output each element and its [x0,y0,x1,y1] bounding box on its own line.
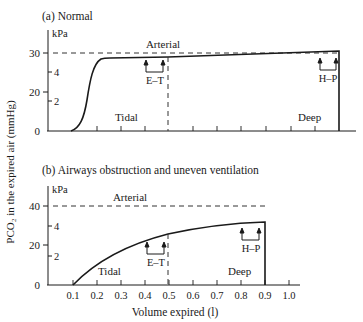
kpa-tick-2: 2 [54,96,59,107]
panel-a-tidal-label: Tidal [115,111,138,123]
x-tick: 0.8 [234,290,247,301]
x-tick: 0.2 [90,290,103,301]
tick-0: 0 [35,125,41,137]
panel-b: (b) Airways obstruction and uneven venti… [29,164,300,319]
panel-b-et-bracket [145,242,166,254]
panel-a-hp-bracket [318,58,338,70]
kpa-tick-2: 2 [54,251,59,262]
x-tick: 0.1 [66,290,79,301]
panel-b-title: (b) Airways obstruction and uneven venti… [42,164,259,177]
panel-a-et-label: E–T [146,75,165,86]
tick-20: 20 [29,239,41,251]
panel-b-et-label: E–T [147,257,166,268]
panel-a-unit: kPa [52,28,68,39]
x-tick: 1.0 [282,290,295,301]
tick-0: 0 [35,279,41,291]
x-axis-label: Volume expired (l) [132,306,219,319]
panel-a-et-bracket [144,60,165,72]
x-tick: 0.5 [162,290,175,301]
panel-b-unit: kPa [52,184,68,195]
figure: PCO₂ in the expired air (mmHg) (a) Norma… [0,0,363,322]
panel-a-title: (a) Normal [42,10,93,23]
panel-a-deep-label: Deep [298,111,322,123]
panel-b-tidal-label: Tidal [98,265,121,277]
panel-a: (a) Normal kPa 30 20 0 4 2 Arteria [29,10,356,137]
panel-b-hp-bracket [240,228,261,240]
x-tick: 0.3 [114,290,127,301]
x-tick: 0.4 [138,290,152,301]
x-tick: 0.6 [186,290,199,301]
panel-b-hp-label: H–P [242,243,261,254]
y-axis-label: PCO₂ in the expired air (mmHg) [4,100,17,244]
kpa-tick-4: 4 [54,221,60,232]
panel-b-arterial-label: Arterial [113,191,147,203]
tick-20: 20 [29,86,41,98]
x-tick: 0.9 [258,290,271,301]
panel-a-arterial-label: Arterial [146,38,180,50]
panel-b-deep-label: Deep [228,265,252,277]
kpa-tick-4: 4 [54,67,60,78]
tick-40: 40 [29,200,41,212]
x-tick: 0.7 [210,290,223,301]
tick-30: 30 [29,47,41,59]
panel-a-hp-label: H–P [319,73,338,84]
